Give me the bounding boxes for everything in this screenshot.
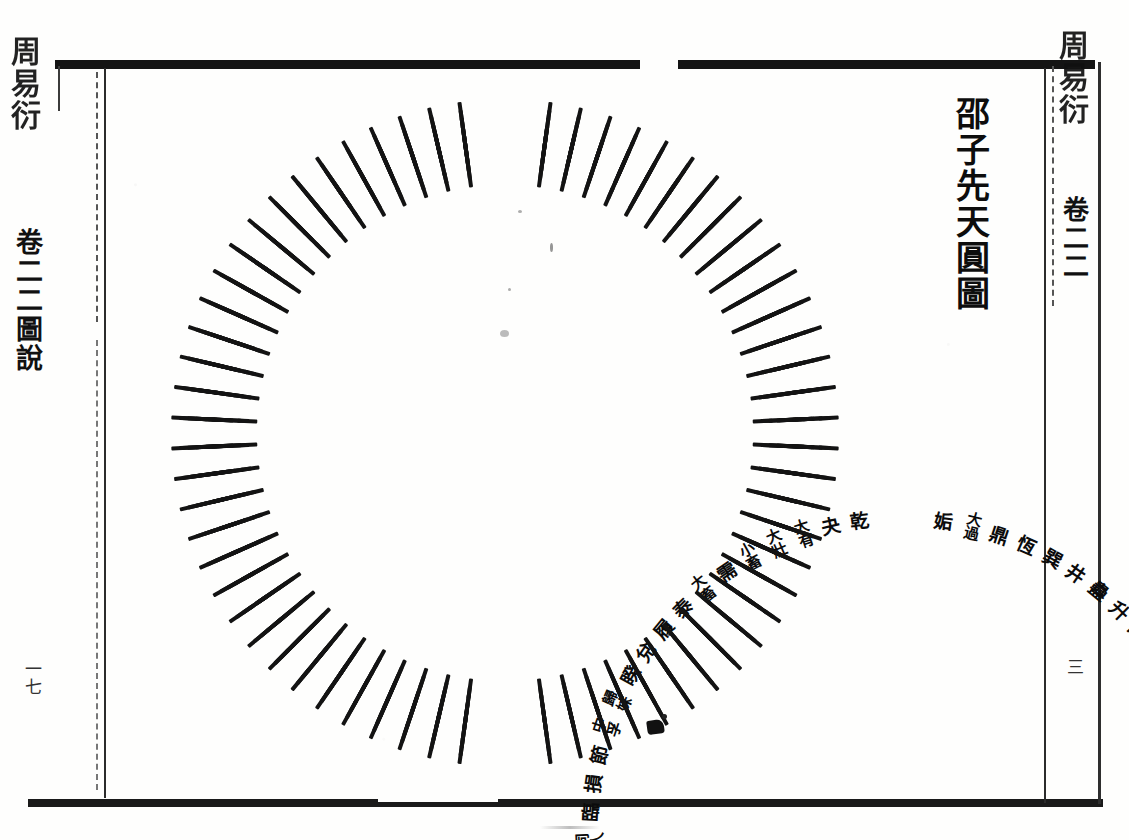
scan-speck <box>500 330 509 337</box>
yang-line <box>199 296 243 318</box>
hexagram-name: 姤 <box>932 510 952 531</box>
yin-line-left <box>793 444 813 449</box>
yang-line <box>427 107 441 153</box>
scan-speck <box>508 288 511 291</box>
yin-line-left <box>741 594 760 609</box>
yin-line-right <box>819 446 839 451</box>
yin-line-left <box>790 471 810 478</box>
left-margin-volume-section: 卷二二圖說 <box>14 228 42 373</box>
yang-line <box>290 653 322 691</box>
frame-rule-right-outer <box>1098 62 1101 804</box>
yang-line <box>268 635 303 670</box>
yin-line-left <box>707 635 724 652</box>
frame-rule-left <box>104 68 106 798</box>
yin-line-left <box>768 307 788 319</box>
yang-line <box>369 696 391 740</box>
yin-line-right <box>791 296 811 308</box>
hexagram-name: 訟 <box>1125 617 1129 643</box>
right-folio-number: 三 <box>1062 658 1087 675</box>
yin-line-right <box>681 156 696 175</box>
yin-line-right <box>810 503 830 511</box>
yang-line <box>427 713 441 759</box>
yin-line-right <box>763 609 782 624</box>
yang-line <box>315 670 344 710</box>
yin-line-left <box>777 333 797 343</box>
ink-blot-small <box>662 714 667 719</box>
yang-line <box>369 126 391 170</box>
yang-line <box>174 471 220 481</box>
yin-line-left <box>542 128 549 148</box>
hexagram-name: 大過 <box>960 510 980 542</box>
yin-line-right <box>630 720 642 740</box>
yang-line <box>315 156 344 196</box>
yang-line <box>228 594 268 623</box>
yin-line-right <box>546 744 553 764</box>
frame-rule-right <box>1044 68 1046 803</box>
yang-line <box>179 497 225 511</box>
yin-line-right <box>574 738 582 758</box>
hexagram-name: 蠱 <box>1085 576 1111 602</box>
yin-line-left <box>687 195 703 213</box>
yin-line-right <box>816 474 836 481</box>
yin-line-right <box>704 175 720 193</box>
yin-line-right <box>816 385 836 392</box>
frame-rule-left-outer <box>58 66 60 111</box>
hexagram-name: 恆 <box>1013 532 1037 556</box>
page-title: 邵子先天圓圖 <box>952 96 989 312</box>
yin-line-right <box>681 691 696 710</box>
left-margin-header: 周易衍 <box>8 36 38 132</box>
yin-line-left <box>725 235 743 251</box>
yang-line <box>188 325 233 343</box>
yin-line-right <box>546 102 553 122</box>
yang-line <box>457 102 467 148</box>
scan-speck <box>518 210 522 213</box>
hexagram-name: 節 <box>587 746 609 767</box>
yang-line <box>397 706 415 751</box>
yin-line-left <box>643 163 656 182</box>
left-folio-number: 一七 <box>20 660 45 696</box>
scan-speck <box>550 243 553 252</box>
yang-line <box>457 718 467 764</box>
yin-line-right <box>725 654 742 671</box>
yang-line <box>268 195 303 230</box>
yin-line-left <box>785 497 805 505</box>
yin-line-right <box>630 126 642 146</box>
yin-line-left <box>666 670 681 689</box>
yin-line-left <box>741 257 760 272</box>
yin-line-left <box>687 653 703 671</box>
hexagram-name: 乾 <box>848 510 868 531</box>
yin-line-right <box>704 673 720 691</box>
yang-line <box>247 218 285 250</box>
bottom-edge-fleck <box>540 826 600 829</box>
yang-line <box>228 242 268 271</box>
yang-line <box>341 684 367 726</box>
yin-line-left <box>569 713 577 733</box>
yin-line-left <box>725 616 743 632</box>
yang-line <box>179 355 225 369</box>
yin-line-right <box>819 416 839 421</box>
yang-line <box>341 140 367 182</box>
yin-line-right <box>810 355 830 363</box>
right-guide-dash <box>1052 66 1054 306</box>
yin-line-left <box>643 684 656 703</box>
yin-line-right <box>763 242 782 257</box>
yin-line-right <box>745 632 763 648</box>
hexagram-name: 臨 <box>580 804 600 822</box>
yin-line-left <box>756 281 775 294</box>
hexagram-name: 巽 <box>1038 544 1062 569</box>
yang-line <box>171 416 217 422</box>
scanned-page: 周易衍 卷二二圖說 一七 周易衍 卷二二 三 邵子先天圓圖 乾夬大有大壯小畜需大… <box>0 0 1129 840</box>
yang-line <box>290 175 322 213</box>
yin-line-left <box>756 572 775 585</box>
yin-line-right <box>574 107 582 127</box>
hexagram-name: 升 <box>1106 596 1129 622</box>
yin-line-right <box>745 218 763 234</box>
hexagram-name: 井 <box>1062 559 1087 585</box>
xiantian-circular-diagram: 乾夬大有大壯小畜需大畜泰履兌睽歸妹中孚節損臨同人革離豐家人既濟賁明夷無妄隨噬嗑震… <box>110 38 900 828</box>
hexagram-name: 損 <box>582 775 603 795</box>
yin-line-left <box>569 133 577 153</box>
yin-line-right <box>602 116 612 136</box>
ink-blot <box>646 719 665 735</box>
yang-line <box>247 616 285 648</box>
yin-line-left <box>707 214 724 231</box>
